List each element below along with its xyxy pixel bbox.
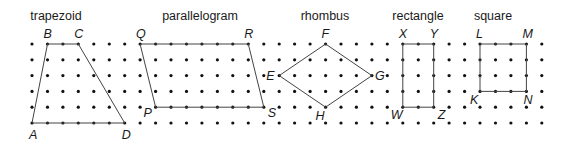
vertex-label-C: C bbox=[74, 27, 84, 41]
grid-dot bbox=[448, 58, 451, 61]
grid-dot bbox=[293, 106, 296, 109]
grid-dot bbox=[448, 90, 451, 93]
grid-dot bbox=[386, 58, 389, 61]
grid-dot bbox=[231, 74, 234, 77]
rectangle-title: rectangle bbox=[392, 9, 443, 23]
grid-dot bbox=[309, 58, 312, 61]
grid-dot bbox=[324, 90, 327, 93]
grid-dot bbox=[386, 42, 389, 45]
vertex-label-D: D bbox=[122, 128, 131, 142]
grid-dot bbox=[139, 74, 142, 77]
grid-dot bbox=[30, 106, 33, 109]
grid-dot bbox=[139, 106, 142, 109]
grid-dot bbox=[247, 121, 250, 124]
vertex-label-X: X bbox=[398, 27, 408, 41]
grid-dot bbox=[108, 90, 111, 93]
grid-dot bbox=[61, 74, 64, 77]
grid-dot bbox=[278, 121, 281, 124]
grid-dot bbox=[293, 58, 296, 61]
grid-dot bbox=[216, 58, 219, 61]
grid-dot bbox=[46, 106, 49, 109]
grid-dot bbox=[494, 121, 497, 124]
grid-dot bbox=[540, 106, 543, 109]
grid-dot bbox=[92, 58, 95, 61]
grid-dot bbox=[339, 121, 342, 124]
grid-dot bbox=[108, 74, 111, 77]
grid-dot bbox=[478, 106, 481, 109]
grid-dot bbox=[339, 58, 342, 61]
dot-grid bbox=[30, 42, 543, 124]
grid-dot bbox=[231, 121, 234, 124]
grid-dot bbox=[509, 74, 512, 77]
grid-dot bbox=[417, 58, 420, 61]
grid-dot bbox=[92, 90, 95, 93]
grid-dot bbox=[370, 106, 373, 109]
grid-dot bbox=[200, 58, 203, 61]
grid-dot bbox=[30, 74, 33, 77]
shape-titles: trapezoidparallelogramrhombusrectanglesq… bbox=[30, 9, 512, 23]
grid-dot bbox=[386, 106, 389, 109]
grid-dot bbox=[386, 74, 389, 77]
grid-dot bbox=[123, 90, 126, 93]
grid-dot bbox=[216, 90, 219, 93]
grid-dot bbox=[540, 74, 543, 77]
grid-dot bbox=[61, 90, 64, 93]
vertex-label-B: B bbox=[44, 27, 52, 41]
grid-dot bbox=[200, 121, 203, 124]
grid-dot bbox=[200, 90, 203, 93]
grid-dot bbox=[448, 74, 451, 77]
vertex-label-K: K bbox=[470, 93, 479, 107]
grid-dot bbox=[355, 42, 358, 45]
grid-dot bbox=[123, 74, 126, 77]
grid-dot bbox=[339, 74, 342, 77]
grid-dot bbox=[247, 74, 250, 77]
grid-dot bbox=[293, 121, 296, 124]
vertex-label-F: F bbox=[322, 27, 331, 41]
grid-dot bbox=[169, 74, 172, 77]
vertex-label-G: G bbox=[375, 69, 385, 83]
grid-dot bbox=[463, 106, 466, 109]
grid-dot bbox=[231, 90, 234, 93]
grid-dot bbox=[448, 121, 451, 124]
vertex-label-P: P bbox=[144, 106, 153, 120]
vertex-label-A: A bbox=[28, 128, 37, 142]
grid-dot bbox=[463, 90, 466, 93]
grid-dot bbox=[509, 106, 512, 109]
grid-dot bbox=[494, 106, 497, 109]
grid-dot bbox=[540, 90, 543, 93]
dot-grid-diagram: trapezoidparallelogramrhombusrectanglesq… bbox=[0, 0, 570, 147]
grid-dot bbox=[92, 74, 95, 77]
parallelogram-title: parallelogram bbox=[162, 9, 238, 23]
grid-dot bbox=[324, 58, 327, 61]
grid-dot bbox=[463, 58, 466, 61]
grid-dot bbox=[432, 121, 435, 124]
grid-dot bbox=[77, 58, 80, 61]
grid-dot bbox=[169, 121, 172, 124]
grid-dot bbox=[262, 58, 265, 61]
grid-dot bbox=[309, 74, 312, 77]
square-shape bbox=[480, 44, 526, 91]
grid-dot bbox=[309, 90, 312, 93]
grid-dot bbox=[216, 121, 219, 124]
grid-dot bbox=[355, 106, 358, 109]
grid-dot bbox=[309, 42, 312, 45]
grid-dot bbox=[77, 90, 80, 93]
grid-dot bbox=[339, 106, 342, 109]
grid-dot bbox=[185, 121, 188, 124]
grid-dot bbox=[92, 42, 95, 45]
square-title: square bbox=[474, 9, 512, 23]
grid-dot bbox=[370, 121, 373, 124]
vertex-label-N: N bbox=[523, 93, 533, 107]
grid-dot bbox=[154, 121, 157, 124]
grid-dot bbox=[293, 74, 296, 77]
grid-dot bbox=[139, 121, 142, 124]
grid-dot bbox=[46, 74, 49, 77]
grid-dot bbox=[247, 90, 250, 93]
grid-dot bbox=[386, 121, 389, 124]
grid-dot bbox=[278, 42, 281, 45]
grid-dot bbox=[108, 42, 111, 45]
grid-dot bbox=[108, 58, 111, 61]
grid-dot bbox=[494, 74, 497, 77]
grid-dot bbox=[293, 90, 296, 93]
trapezoid-title: trapezoid bbox=[30, 9, 81, 23]
